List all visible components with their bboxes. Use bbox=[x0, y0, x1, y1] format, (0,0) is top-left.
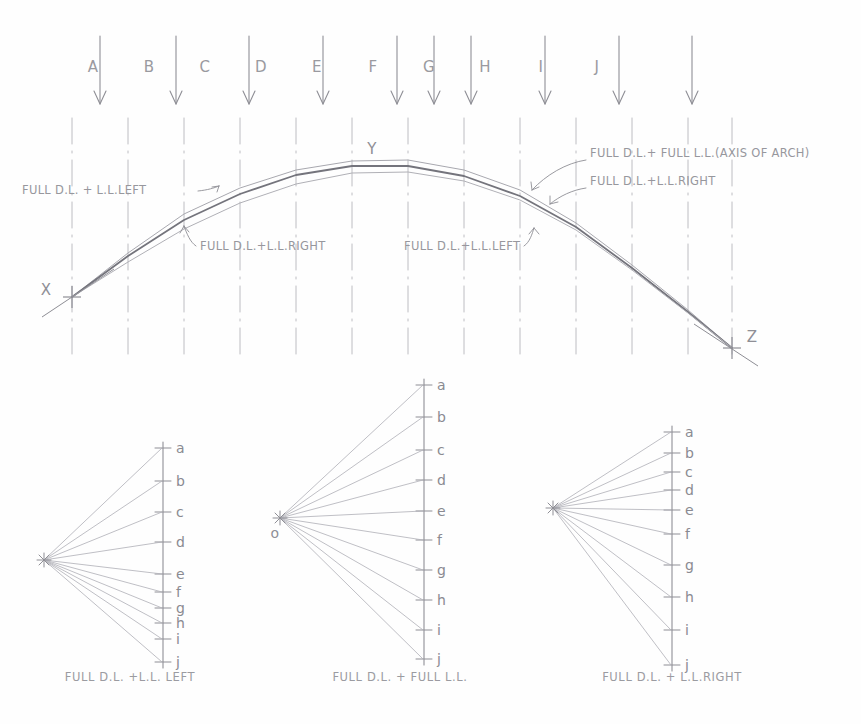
ann-left-ll-left-text: FULL D.L. + L.L.LEFT bbox=[22, 183, 147, 197]
poly-left-tick-label-a: a bbox=[176, 440, 185, 456]
poly-left-tick-label-i: i bbox=[176, 631, 180, 647]
poly-middle-ray-j bbox=[280, 518, 423, 659]
poly-right-ray-d bbox=[553, 490, 671, 508]
poly-left-ray-f bbox=[44, 560, 162, 592]
panel-letter-I: I bbox=[539, 58, 544, 76]
ann-left-ll-right-leader bbox=[184, 226, 196, 246]
poly-middle-tick-label-d: d bbox=[437, 472, 446, 488]
poly-right-ray-j bbox=[553, 508, 671, 665]
panel-letter-F: F bbox=[368, 58, 377, 76]
ann-axis-arrow bbox=[531, 182, 539, 190]
springing-tangent-left bbox=[42, 269, 114, 317]
poly-middle-tick-label-a: a bbox=[437, 377, 446, 393]
poly-right-tick-label-a: a bbox=[685, 424, 694, 440]
ann-left-ll-right-text: FULL D.L.+L.L.RIGHT bbox=[200, 239, 326, 253]
support-right-label: Z bbox=[747, 328, 758, 346]
poly-left-caption: FULL D.L. +L.L. LEFT bbox=[65, 670, 196, 684]
panel-letter-J: J bbox=[594, 58, 600, 76]
poly-left-tick-label-g: g bbox=[176, 600, 185, 616]
support-left-mark bbox=[63, 286, 81, 308]
drawing-sheet: ABCDEFGHIJXZYFULL D.L. + L.L.LEFTFULL D.… bbox=[0, 0, 861, 724]
crown-label: Y bbox=[366, 140, 377, 158]
poly-right-ray-e bbox=[553, 508, 671, 510]
arch-curve-full-dl-ll-right bbox=[72, 172, 732, 348]
poly-middle-ray-a bbox=[280, 385, 423, 518]
poly-left-ray-h bbox=[44, 560, 162, 623]
poly-left-tick-label-b: b bbox=[176, 473, 185, 489]
poly-right-ray-a bbox=[553, 432, 671, 508]
load-arrow-C bbox=[243, 36, 255, 104]
poly-right-tick-label-h: h bbox=[685, 589, 694, 605]
ann-axis-leader bbox=[532, 160, 586, 190]
panel-letter-B: B bbox=[144, 58, 155, 76]
poly-middle-ray-i bbox=[280, 518, 423, 630]
poly-right-caption: FULL D.L. + L.L.RIGHT bbox=[602, 670, 742, 684]
poly-middle-tick-label-j: j bbox=[436, 651, 441, 667]
poly-right-tick-label-d: d bbox=[685, 482, 694, 498]
ann-left-ll-left-arrow bbox=[212, 186, 219, 192]
poly-middle-ray-g bbox=[280, 518, 423, 570]
support-right-mark bbox=[723, 337, 741, 359]
poly-right-ray-g bbox=[553, 508, 671, 565]
ann-right-ll-left-leader bbox=[524, 228, 534, 246]
poly-left-ray-b bbox=[44, 481, 162, 560]
load-arrow-E bbox=[391, 36, 403, 104]
poly-middle-tick-label-f: f bbox=[437, 532, 443, 548]
arch-curve-full-dl-full-ll-axis bbox=[72, 166, 732, 348]
poly-left-tick-label-e: e bbox=[176, 566, 185, 582]
load-arrow-G bbox=[465, 36, 477, 104]
panel-letter-D: D bbox=[255, 58, 267, 76]
poly-middle-tick-label-b: b bbox=[437, 409, 446, 425]
panel-letter-A: A bbox=[88, 58, 99, 76]
poly-left-tick-label-j: j bbox=[175, 654, 180, 670]
ann-right-ll-left-text: FULL D.L.+L.L.LEFT bbox=[404, 239, 521, 253]
panel-letter-H: H bbox=[479, 58, 491, 76]
poly-right-ray-i bbox=[553, 508, 671, 630]
load-arrow-J bbox=[686, 36, 698, 104]
poly-middle-caption: FULL D.L. + FULL L.L. bbox=[332, 670, 467, 684]
ann-axis-text: FULL D.L.+ FULL L.L.(AXIS OF ARCH) bbox=[590, 146, 810, 160]
poly-left: abcdefghijFULL D.L. +L.L. LEFT bbox=[37, 440, 195, 684]
poly-left-ray-a bbox=[44, 448, 162, 560]
poly-middle-tick-label-g: g bbox=[437, 562, 446, 578]
poly-right-tick-label-c: c bbox=[685, 464, 693, 480]
poly-middle-pole-label: o bbox=[271, 525, 280, 541]
support-left-label: X bbox=[41, 281, 52, 299]
ann-right-ll-right-leader bbox=[550, 188, 586, 204]
poly-right: abcdefghijFULL D.L. + L.L.RIGHT bbox=[546, 424, 742, 684]
poly-left-ray-j bbox=[44, 560, 162, 662]
panel-letter-E: E bbox=[312, 58, 322, 76]
poly-left-tick-label-d: d bbox=[176, 534, 185, 550]
poly-left-tick-label-h: h bbox=[176, 615, 185, 631]
poly-middle: abcdefghijoFULL D.L. + FULL L.L. bbox=[271, 377, 468, 684]
load-arrow-B bbox=[170, 36, 182, 104]
poly-left-tick-label-f: f bbox=[176, 584, 182, 600]
poly-right-tick-label-i: i bbox=[685, 622, 689, 638]
drawing-canvas: ABCDEFGHIJXZYFULL D.L. + L.L.LEFTFULL D.… bbox=[0, 0, 861, 724]
poly-middle-tick-label-i: i bbox=[437, 622, 441, 638]
poly-left-tick-label-c: c bbox=[176, 504, 184, 520]
poly-left-ray-c bbox=[44, 512, 162, 560]
panel-letter-C: C bbox=[200, 58, 211, 76]
poly-middle-tick-label-h: h bbox=[437, 592, 446, 608]
poly-middle-ray-h bbox=[280, 518, 423, 600]
poly-middle-tick-label-e: e bbox=[437, 503, 446, 519]
poly-middle-ray-f bbox=[280, 518, 423, 540]
panel-letter-G: G bbox=[423, 58, 435, 76]
poly-right-tick-label-e: e bbox=[685, 502, 694, 518]
poly-right-ray-c bbox=[553, 472, 671, 508]
poly-left-ray-d bbox=[44, 542, 162, 560]
poly-right-tick-label-g: g bbox=[685, 557, 694, 573]
ann-right-ll-right-text: FULL D.L.+L.L.RIGHT bbox=[590, 174, 716, 188]
load-arrow-I bbox=[613, 36, 625, 104]
arch-curve-full-dl-ll-left bbox=[72, 160, 732, 348]
poly-middle-ray-c bbox=[280, 450, 423, 518]
poly-right-tick-label-f: f bbox=[685, 526, 691, 542]
poly-middle-ray-b bbox=[280, 417, 423, 518]
poly-right-ray-b bbox=[553, 453, 671, 508]
poly-middle-tick-label-c: c bbox=[437, 442, 445, 458]
poly-right-tick-label-b: b bbox=[685, 445, 694, 461]
